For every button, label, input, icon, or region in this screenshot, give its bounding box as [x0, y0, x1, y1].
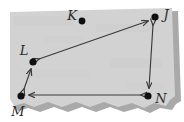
point-label-K: K — [66, 8, 78, 23]
point-label-M: M — [10, 104, 25, 119]
point-label-L: L — [19, 43, 29, 58]
point-L[interactable] — [29, 58, 36, 65]
point-M[interactable] — [17, 92, 24, 99]
diagram-canvas: J K L M N — [0, 0, 184, 122]
point-label-N: N — [154, 91, 167, 106]
diagram-stage: J K L M N — [0, 0, 184, 122]
point-K[interactable] — [79, 18, 86, 25]
point-J[interactable] — [151, 13, 158, 20]
point-N[interactable] — [144, 92, 151, 99]
